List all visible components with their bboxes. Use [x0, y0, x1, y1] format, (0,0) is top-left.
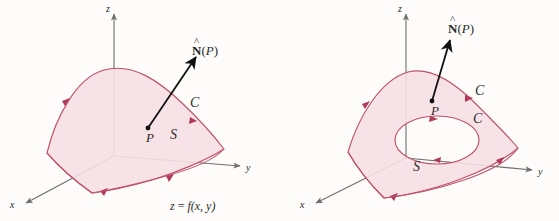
surface-s-label: S — [170, 128, 177, 142]
normal-vector-arg: (P) — [457, 21, 474, 36]
z-axis-label: z — [398, 4, 402, 14]
z-axis-label: z — [106, 4, 110, 14]
hat-accent: ^ — [194, 36, 199, 47]
normal-vector-label: ^N(P) — [448, 22, 474, 35]
curve-c-label: C — [190, 96, 199, 110]
curve-c-inner-label: C — [473, 112, 482, 126]
curve-c-outer-label: C — [475, 84, 484, 98]
normal-vector-symbol: ^N — [448, 22, 457, 35]
hat-accent: ^ — [450, 14, 455, 25]
surface-region-left — [47, 68, 224, 193]
right-diagram-svg — [280, 0, 559, 221]
surface-fill-right — [280, 0, 559, 221]
equation-operator: = — [178, 199, 185, 213]
y-axis-label: y — [246, 163, 250, 173]
equation-lhs: z — [170, 199, 175, 213]
x-axis-label: x — [10, 200, 14, 210]
equation-arguments: (x, y) — [191, 199, 216, 213]
surface-region-right — [280, 0, 559, 221]
point-p-label: P — [431, 104, 439, 117]
normal-vector-label: ^N(P) — [192, 44, 218, 57]
surface-fill-left — [47, 68, 224, 193]
point-p-label: P — [146, 131, 154, 144]
surface-equation-label: z = f(x, y) — [170, 200, 215, 212]
diagram-panel-right: z y x ^N(P) P C C S — [280, 0, 559, 221]
x-axis-label: x — [300, 200, 304, 210]
normal-vector-symbol: ^N — [192, 44, 201, 57]
y-axis-label: y — [538, 167, 542, 177]
surface-s-label: S — [413, 160, 420, 174]
normal-vector-arg: (P) — [201, 43, 218, 58]
left-diagram-svg — [0, 0, 279, 221]
diagram-panel-left: z y x ^N(P) P S C z = f(x, y) — [0, 0, 279, 221]
figure-canvas: z y x ^N(P) P S C z = f(x, y) — [0, 0, 559, 221]
